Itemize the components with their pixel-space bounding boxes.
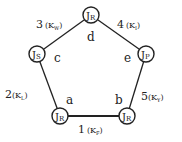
joint-subscript: P	[145, 53, 150, 61]
edge-label-3: 3(KW)	[36, 18, 62, 31]
joint-subscript: R	[90, 14, 96, 22]
joint-subscript: R	[126, 115, 132, 123]
joint-subscript: R	[59, 115, 65, 123]
joint-subscript: S	[36, 53, 41, 61]
vertex-label-d: d	[87, 30, 95, 44]
joint-c: JS	[29, 46, 45, 62]
joint-d: JR	[83, 7, 99, 23]
vertex-label-c: c	[54, 51, 61, 65]
edge-label-2: 2(KL)	[5, 88, 28, 101]
joint-a: JR	[52, 108, 68, 124]
vertex-label-b: b	[115, 93, 123, 107]
vertex-label-a: a	[66, 93, 73, 107]
edge-label-4: 4(KI)	[117, 18, 140, 31]
joint-b: JR	[119, 108, 135, 124]
vertex-label-e: e	[124, 51, 131, 65]
edge-label-1: 1(KF)	[78, 123, 103, 136]
joint-e: JP	[138, 46, 154, 62]
edge-label-5: 5(KY)	[141, 90, 164, 103]
pentagon-linkage-diagram: JR JS JP JR JR d c e a b 1(KF) 2(KL) 3(K…	[0, 0, 182, 142]
